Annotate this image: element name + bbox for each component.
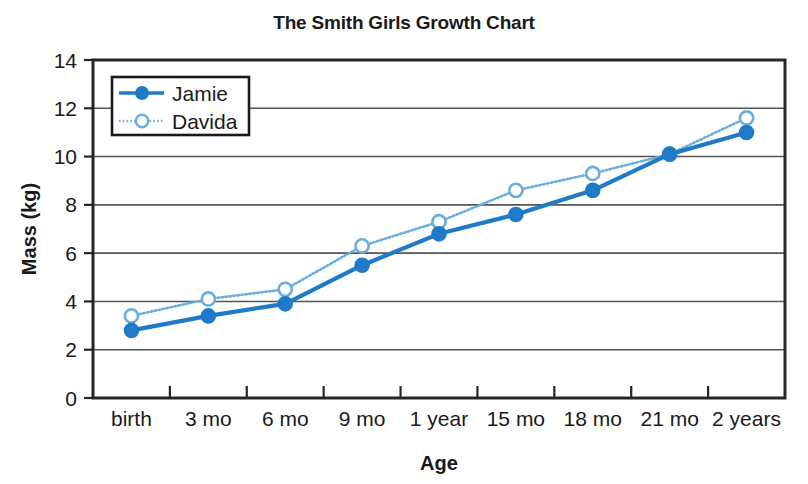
y-tick-label: 6 xyxy=(65,242,77,265)
x-tick-label: 21 mo xyxy=(640,407,698,430)
y-tick-label: 14 xyxy=(54,49,78,72)
data-point xyxy=(355,258,369,272)
x-tick-label: birth xyxy=(111,407,152,430)
chart-legend: Jamie Davida xyxy=(112,77,249,135)
x-tick-label: 15 mo xyxy=(487,407,545,430)
y-axis-tick-labels: 02468101214 xyxy=(54,49,78,410)
data-point xyxy=(278,297,292,311)
y-tick-label: 10 xyxy=(54,145,77,168)
growth-chart-figure: The Smith Girls Growth Chart 02468101214… xyxy=(0,0,808,484)
data-point xyxy=(663,147,677,161)
data-point xyxy=(740,111,753,124)
y-tick-label: 12 xyxy=(54,97,77,120)
data-point xyxy=(740,125,754,139)
data-point xyxy=(124,323,138,337)
x-tick-label: 1 year xyxy=(410,407,468,430)
legend-label-davida: Davida xyxy=(172,110,238,133)
y-axis-title: Mass (kg) xyxy=(18,183,40,275)
x-tick-label: 18 mo xyxy=(564,407,622,430)
chart-plot-area: 02468101214 birth3 mo6 mo9 mo1 year15 mo… xyxy=(0,0,808,484)
x-tick-label: 3 mo xyxy=(185,407,232,430)
legend-label-jamie: Jamie xyxy=(172,82,228,105)
data-series-group xyxy=(124,111,753,337)
data-point xyxy=(202,292,215,305)
x-tick-marks-group xyxy=(170,386,708,398)
x-axis-title: Age xyxy=(420,452,458,474)
data-point xyxy=(586,167,599,180)
data-point xyxy=(586,183,600,197)
legend-marker-jamie xyxy=(136,87,148,99)
data-point xyxy=(279,283,292,296)
y-tick-label: 0 xyxy=(65,387,77,410)
y-tick-label: 8 xyxy=(65,193,77,216)
data-point xyxy=(509,208,523,222)
data-point xyxy=(356,239,369,252)
legend-marker-davida xyxy=(136,115,148,127)
x-axis-tick-labels: birth3 mo6 mo9 mo1 year15 mo18 mo21 mo2 … xyxy=(111,407,781,430)
x-tick-label: 6 mo xyxy=(262,407,309,430)
x-tick-label: 9 mo xyxy=(339,407,386,430)
data-point xyxy=(125,309,138,322)
x-tick-label: 2 years xyxy=(712,407,781,430)
data-point xyxy=(432,227,446,241)
data-point xyxy=(201,309,215,323)
series-davida xyxy=(125,111,753,322)
y-tick-label: 4 xyxy=(65,290,77,313)
data-point xyxy=(509,184,522,197)
y-tick-label: 2 xyxy=(65,338,77,361)
